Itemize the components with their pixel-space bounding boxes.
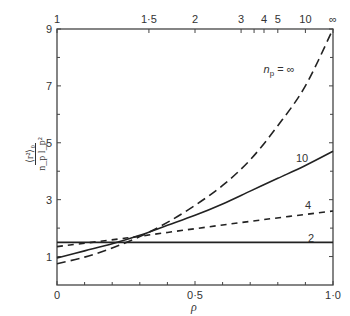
y-tick-label: 9 <box>46 23 52 35</box>
y-axis-label-numerator: ⟨r²⟩₀ <box>24 143 36 165</box>
curve-label-3: 2 <box>308 232 314 244</box>
top-tick-label: 3 <box>238 13 244 25</box>
top-tick-label: 10 <box>299 13 311 25</box>
top-tick-label: 2 <box>192 13 198 25</box>
y-tick-label: 3 <box>46 194 52 206</box>
y-axis-label: ⟨r²⟩₀ n_p l_p² <box>24 124 48 184</box>
x-tick-label: 1·0 <box>325 289 341 301</box>
y-axis-label-denominator: n_p l_p² <box>36 137 47 170</box>
curve-label-1: 10 <box>296 152 308 164</box>
series-line-2 <box>57 211 333 247</box>
x-axis-label: ρ <box>191 300 197 315</box>
x-tick-label: 0 <box>54 289 60 301</box>
curve-label-0: np = ∞ <box>264 63 295 78</box>
top-tick-label: ∞ <box>329 13 337 25</box>
top-tick-label: 1 <box>54 13 60 25</box>
y-tick-label: 7 <box>46 80 52 92</box>
top-tick-label: 1·5 <box>141 13 157 25</box>
top-tick-label: 4 <box>261 13 267 25</box>
y-tick-label: 1 <box>46 251 52 263</box>
curve-label-2: 4 <box>305 199 311 211</box>
top-tick-label: 5 <box>275 13 281 25</box>
chart-canvas: 00·51·01357911·5234510∞np = ∞1042 <box>0 0 350 316</box>
